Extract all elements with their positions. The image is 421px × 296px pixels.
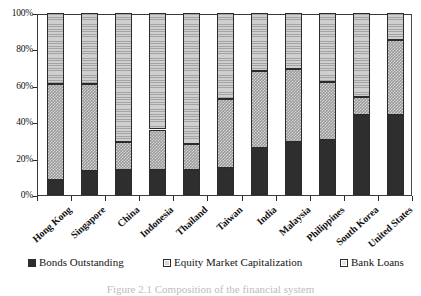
bar-segment-bank-loans	[183, 13, 200, 144]
x-axis-category-label: China	[115, 204, 141, 229]
bar-segment-bank-loans	[353, 13, 370, 97]
chart-legend: Bonds OutstandingEquity Market Capitaliz…	[0, 256, 421, 274]
bar	[81, 15, 98, 195]
legend-item: Equity Market Capitalization	[163, 256, 302, 269]
bar-segment-bonds	[81, 171, 98, 195]
bar-segment-equity	[387, 40, 404, 115]
y-axis-tick-label: 100%	[2, 9, 33, 18]
bar-segment-bank-loans	[115, 13, 132, 142]
bar	[217, 15, 234, 195]
bar-segment-bonds	[353, 115, 370, 195]
bar-segment-bank-loans	[251, 13, 268, 71]
legend-label: Bonds Outstanding	[39, 256, 124, 269]
legend-label: Equity Market Capitalization	[174, 256, 302, 269]
bar	[115, 15, 132, 195]
bar	[285, 15, 302, 195]
legend-swatch-icon	[163, 259, 171, 267]
plot-area	[37, 14, 412, 196]
bar-segment-equity	[115, 142, 132, 169]
bar-segment-bank-loans	[285, 13, 302, 69]
bar	[319, 15, 336, 195]
bar-segment-equity	[217, 99, 234, 168]
legend-label: Bank Loans	[351, 256, 404, 269]
bar-segment-bank-loans	[81, 13, 98, 84]
bar-segment-bonds	[217, 168, 234, 195]
y-axis-tick-label: 80%	[2, 45, 33, 54]
bar-segment-bonds	[387, 115, 404, 195]
legend-item: Bonds Outstanding	[28, 256, 124, 269]
bar-segment-bonds	[319, 140, 336, 195]
x-axis-labels: Hong KongSingaporeChinaIndonesiaThailand…	[0, 196, 421, 254]
bar-segment-bank-loans	[47, 13, 64, 84]
bar-segment-equity	[353, 97, 370, 115]
bar-segment-equity	[285, 69, 302, 142]
bar	[47, 15, 64, 195]
bar	[183, 15, 200, 195]
x-axis-category-label: Indonesia	[138, 204, 176, 239]
bar-segment-equity	[81, 84, 98, 171]
bar-segment-bonds	[115, 170, 132, 195]
bar	[387, 15, 404, 195]
bar-segment-bonds	[47, 180, 64, 195]
bar	[353, 15, 370, 195]
bar-segment-bonds	[183, 170, 200, 195]
bar-segment-equity	[251, 71, 268, 147]
x-axis-category-label: Taiwan	[214, 204, 244, 233]
bar	[251, 15, 268, 195]
bar-segment-equity	[183, 144, 200, 169]
legend-swatch-icon	[28, 259, 36, 267]
x-axis-category-label: India	[254, 204, 278, 227]
bar-segment-bank-loans	[387, 13, 404, 40]
bar-segment-bank-loans	[217, 13, 234, 99]
legend-item: Bank Loans	[340, 256, 404, 269]
x-axis-category-label: Hong Kong	[30, 204, 73, 244]
x-axis-category-label: Thailand	[174, 204, 210, 238]
bar-segment-bonds	[285, 142, 302, 195]
bar-segment-bonds	[251, 148, 268, 195]
figure-caption: Figure 2.1 Composition of the financial …	[0, 283, 421, 296]
bar-segment-equity	[47, 84, 64, 180]
bar-segment-bonds	[149, 170, 166, 195]
bar-segment-bank-loans	[149, 13, 166, 129]
bar	[149, 15, 166, 195]
bar-segment-bank-loans	[319, 13, 336, 82]
y-axis-tick-label: 40%	[2, 118, 33, 127]
x-axis-category-label: Singapore	[69, 204, 108, 240]
legend-swatch-icon	[340, 259, 348, 267]
y-axis-tick-label: 60%	[2, 82, 33, 91]
bar-segment-equity	[319, 82, 336, 140]
bar-segment-equity	[149, 130, 166, 170]
y-axis-tick-label: 20%	[2, 155, 33, 164]
